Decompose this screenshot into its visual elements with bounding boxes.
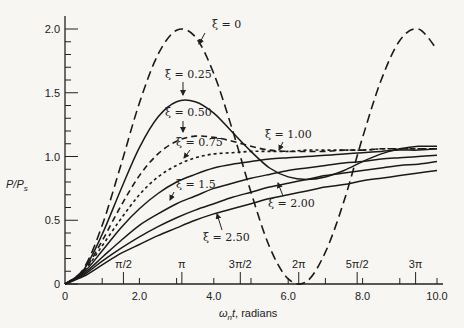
pi-tick-label: 5π/2 <box>346 258 369 270</box>
x-tick-label: 6.0 <box>281 290 296 302</box>
y-tick-label: 1.0 <box>45 151 60 163</box>
curve-label: ξ = 0 <box>212 18 241 31</box>
curves <box>65 29 437 284</box>
arrow-icon <box>184 150 190 158</box>
x-axis-label: ωnt, radians <box>219 307 278 322</box>
step-response-chart: 00.51.01.52.002.04.06.08.010.0π/2π3π/22π… <box>0 0 464 328</box>
curve-label: ξ = 2.00 <box>268 197 315 210</box>
curve-labels: ξ = 0ξ = 0.25ξ = 0.50ξ = 0.75ξ = 1.00ξ =… <box>165 18 315 244</box>
curve-label: ξ = 0.75 <box>176 136 223 149</box>
pi-tick-label: π/2 <box>115 258 132 270</box>
x-tick-label: 4.0 <box>206 290 221 302</box>
y-tick-label: 0.5 <box>45 214 60 226</box>
x-tick-label: 8.0 <box>355 290 370 302</box>
arrow-icon <box>199 33 205 44</box>
curve-0 <box>65 29 437 284</box>
x-tick-label: 10.0 <box>426 290 447 302</box>
y-tick-label: 0 <box>54 278 60 290</box>
curve-label: ξ = 2.50 <box>203 231 250 244</box>
pi-tick-label: π <box>178 258 186 270</box>
pi-tick-label: 3π/2 <box>229 258 252 270</box>
arrow-icon <box>170 192 174 200</box>
y-tick-label: 1.5 <box>45 87 60 99</box>
arrow-icon <box>279 142 283 150</box>
arrow-icon <box>217 214 222 230</box>
curve-label: ξ = 1.00 <box>265 128 312 141</box>
y-tick-label: 2.0 <box>45 23 60 35</box>
x-tick-label: 0 <box>62 290 68 302</box>
curve-label: ξ = 1.5 <box>176 178 216 191</box>
pi-tick-label: 2π <box>292 258 306 270</box>
y-axis-label: P/Ps <box>6 178 28 193</box>
curve-label: ξ = 0.50 <box>165 106 212 119</box>
x-tick-label: 2.0 <box>132 290 147 302</box>
pi-tick-label: 3π <box>409 258 423 270</box>
curve-label: ξ = 0.25 <box>165 68 212 81</box>
